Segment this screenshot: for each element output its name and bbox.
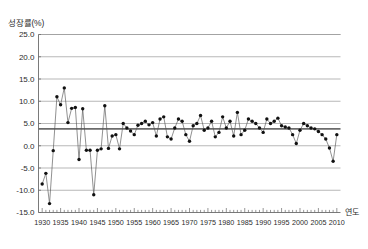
- y-tick-labels: 25.020.015.010.05.00.0-5.0-10.0-15.0: [16, 30, 35, 217]
- svg-text:10.0: 10.0: [19, 97, 35, 106]
- svg-text:5.0: 5.0: [23, 119, 35, 128]
- svg-text:-5.0: -5.0: [21, 164, 35, 173]
- x-tick-labels: 1930193519401945195019551960196519701975…: [34, 218, 345, 227]
- svg-text:1970: 1970: [182, 218, 198, 227]
- svg-text:1975: 1975: [200, 218, 216, 227]
- svg-text:1985: 1985: [237, 218, 253, 227]
- svg-text:1980: 1980: [218, 218, 234, 227]
- svg-text:1960: 1960: [145, 218, 161, 227]
- svg-text:0.0: 0.0: [23, 142, 35, 151]
- chart-figure: 성장률(%) 연도 25.020.015.010.05.00.0-5.0-10.…: [0, 0, 368, 249]
- svg-text:2010: 2010: [329, 218, 345, 227]
- svg-text:25.0: 25.0: [19, 30, 35, 39]
- svg-text:-15.0: -15.0: [16, 208, 35, 217]
- svg-text:1945: 1945: [89, 218, 105, 227]
- svg-text:2000: 2000: [292, 218, 308, 227]
- svg-text:15.0: 15.0: [19, 75, 35, 84]
- svg-text:1930: 1930: [34, 218, 50, 227]
- svg-text:-10.0: -10.0: [16, 186, 35, 195]
- gridlines: [39, 35, 341, 191]
- svg-text:1995: 1995: [274, 218, 290, 227]
- svg-text:1935: 1935: [53, 218, 69, 227]
- svg-text:1955: 1955: [126, 218, 142, 227]
- svg-text:20.0: 20.0: [19, 53, 35, 62]
- svg-text:1940: 1940: [71, 218, 87, 227]
- svg-text:2005: 2005: [310, 218, 326, 227]
- svg-text:1950: 1950: [108, 218, 124, 227]
- svg-text:1990: 1990: [255, 218, 271, 227]
- svg-text:1965: 1965: [163, 218, 179, 227]
- chart-plot-area: 25.020.015.010.05.00.0-5.0-10.0-15.0 193…: [0, 0, 368, 249]
